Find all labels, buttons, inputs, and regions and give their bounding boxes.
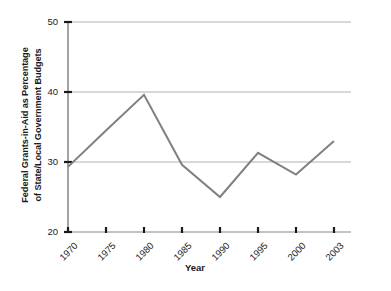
data-series-line	[68, 95, 334, 197]
y-tick-label-30: 30	[38, 156, 58, 167]
y-tick-label-40: 40	[38, 86, 58, 97]
x-axis-title: Year	[145, 262, 245, 273]
y-tick-label-50: 50	[38, 16, 58, 27]
y-tick-label-20: 20	[38, 226, 58, 237]
chart-figure: Federal Grants-in-Aid as Percentage of S…	[0, 0, 391, 291]
